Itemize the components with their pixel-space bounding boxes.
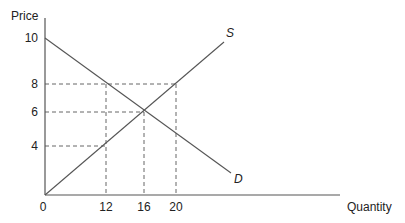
y-tick-4: 4 <box>31 139 38 153</box>
x-tick-12: 12 <box>99 200 113 214</box>
y-axis-label: Price <box>11 9 39 23</box>
supply-curve <box>45 42 224 195</box>
x-axis-label: Quantity <box>347 200 392 214</box>
x-tick-16: 16 <box>137 200 151 214</box>
supply-label: S <box>226 26 234 40</box>
supply-demand-chart: Price Quantity 10 8 6 4 0 12 16 20 S D <box>0 0 405 223</box>
x-tick-0: 0 <box>40 200 47 214</box>
y-tick-10: 10 <box>25 31 39 45</box>
y-tick-6: 6 <box>31 105 38 119</box>
y-tick-8: 8 <box>31 77 38 91</box>
x-tick-20: 20 <box>169 200 183 214</box>
demand-label: D <box>234 172 243 186</box>
demand-curve <box>45 38 231 173</box>
